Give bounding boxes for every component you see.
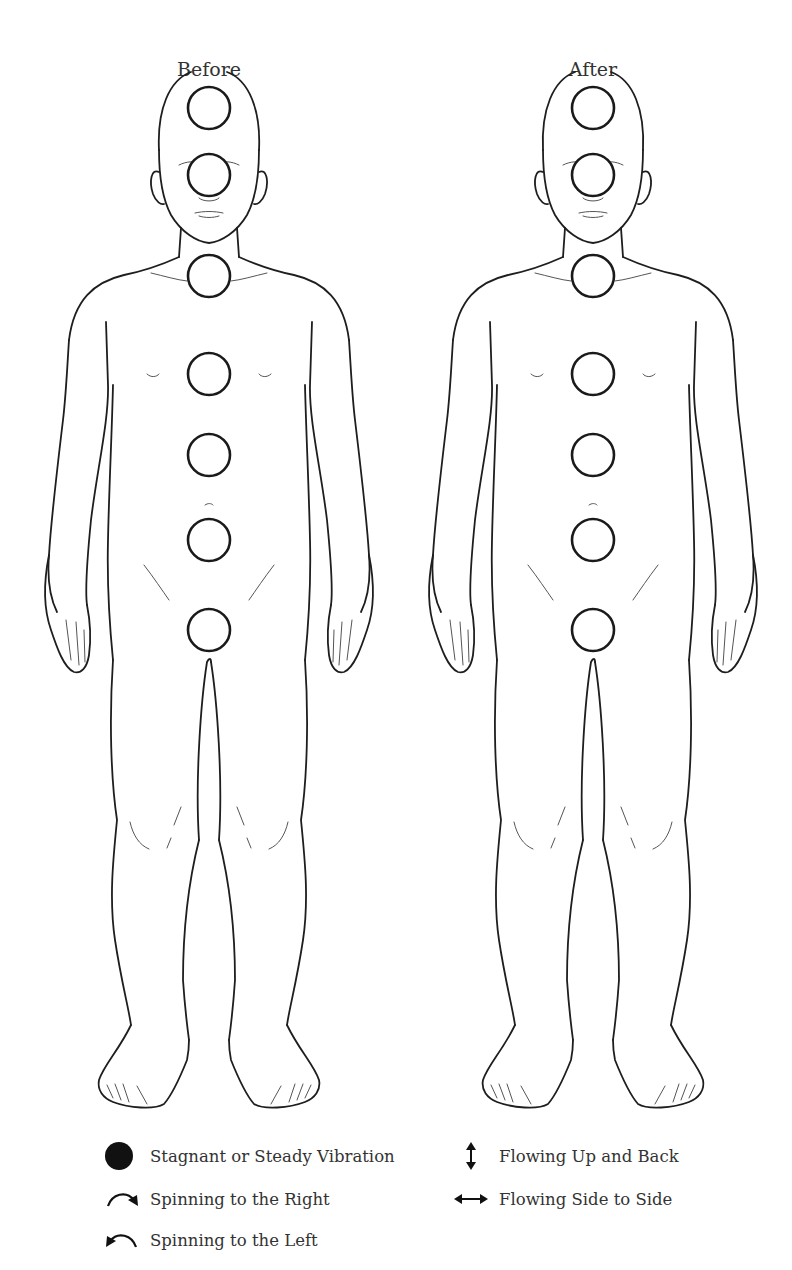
legend-item-flow-up-back: Flowing Up and Back [453, 1141, 679, 1171]
vertical-double-arrow-icon [453, 1141, 489, 1171]
legend-label: Stagnant or Steady Vibration [150, 1147, 395, 1166]
chakra-crown[interactable] [188, 87, 230, 129]
body-diagrams [0, 0, 792, 1270]
chakra-root[interactable] [188, 609, 230, 651]
legend-label: Flowing Up and Back [499, 1147, 679, 1166]
chakra-solar-plexus[interactable] [188, 434, 230, 476]
chakra-solar-plexus[interactable] [572, 434, 614, 476]
clockwise-arrow-icon [104, 1184, 140, 1214]
horizontal-double-arrow-icon [453, 1184, 489, 1214]
chakra-throat[interactable] [572, 255, 614, 297]
legend-item-spin-right: Spinning to the Right [104, 1184, 330, 1214]
legend-item-spin-left: Spinning to the Left [104, 1225, 318, 1255]
counterclockwise-arrow-icon [104, 1225, 140, 1255]
chakra-throat[interactable] [188, 255, 230, 297]
legend-label: Flowing Side to Side [499, 1190, 672, 1209]
after-chakras [572, 87, 614, 651]
chakra-crown[interactable] [572, 87, 614, 129]
before-figure [45, 72, 373, 1108]
chakra-sacral[interactable] [188, 519, 230, 561]
chakra-heart[interactable] [572, 353, 614, 395]
legend-item-flow-side: Flowing Side to Side [453, 1184, 672, 1214]
chakra-third-eye[interactable] [188, 154, 230, 196]
chakra-heart[interactable] [188, 353, 230, 395]
legend-item-stagnant: Stagnant or Steady Vibration [104, 1141, 395, 1171]
chakra-sacral[interactable] [572, 519, 614, 561]
chakra-root[interactable] [572, 609, 614, 651]
filled-circle-icon [104, 1141, 140, 1171]
legend-label: Spinning to the Right [150, 1190, 330, 1209]
chakra-third-eye[interactable] [572, 154, 614, 196]
legend-label: Spinning to the Left [150, 1231, 318, 1250]
after-figure [429, 72, 757, 1108]
before-chakras [188, 87, 230, 651]
